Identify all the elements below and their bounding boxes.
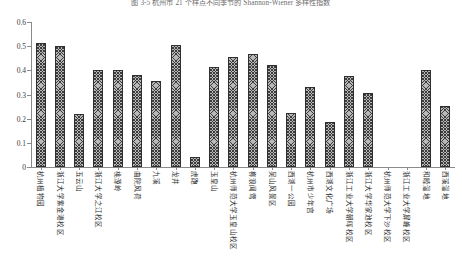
- y-axis-tick-mark: [27, 70, 31, 71]
- x-axis-tick-mark: [253, 167, 254, 170]
- x-axis-category-label: 九溪: [152, 171, 159, 185]
- bar: [132, 75, 142, 167]
- bar: [267, 65, 277, 167]
- x-axis-category-label: 杭州师范大学下沙校区: [384, 171, 391, 243]
- bar: [171, 45, 181, 167]
- y-axis-tick-mark: [27, 46, 31, 47]
- x-axis-category-label: 杭州植物园: [37, 171, 44, 207]
- x-axis-category-label: 虎跑: [191, 171, 198, 185]
- x-axis-tick-mark: [195, 167, 196, 170]
- x-axis-category-label: 西湖一公园: [287, 171, 294, 207]
- y-axis-tick-mark: [27, 143, 31, 144]
- x-axis-tick-mark: [349, 167, 350, 170]
- x-axis-tick-mark: [310, 167, 311, 170]
- bar: [190, 157, 200, 167]
- x-axis-category-label: 吴山风景区: [268, 171, 275, 207]
- x-axis-tick-mark: [368, 167, 369, 170]
- x-axis-category-label: 龙井: [172, 171, 179, 185]
- y-axis-tick-label: 0.4: [17, 66, 26, 75]
- bar: [228, 57, 238, 167]
- x-axis-tick-mark: [98, 167, 99, 170]
- x-axis-category-label: 玉皇山: [210, 171, 217, 193]
- x-axis-category-label: 浙江大学紫金港校区: [56, 171, 63, 236]
- x-axis-category-label: 柳浪闻莺: [249, 171, 256, 200]
- bar: [440, 106, 450, 167]
- x-axis-tick-mark: [214, 167, 215, 170]
- y-axis-tick-label: 0.5: [17, 42, 26, 51]
- x-axis-category-label: 五云山: [75, 171, 82, 193]
- plot-area: 00.10.20.30.40.50.6: [31, 22, 455, 167]
- x-axis-tick-mark: [407, 167, 408, 170]
- x-axis-category-label: 浙江工业大学朝晖校区: [345, 171, 352, 243]
- x-axis-tick-mark: [118, 167, 119, 170]
- bar: [55, 46, 65, 167]
- x-axis-tick-mark: [445, 167, 446, 170]
- x-axis-tick-mark: [291, 167, 292, 170]
- y-axis-tick-mark: [27, 22, 31, 23]
- bar: [113, 70, 123, 167]
- bar: [36, 43, 46, 167]
- x-axis-category-label: 和睦湿地: [422, 171, 429, 200]
- x-axis-tick-mark: [426, 167, 427, 170]
- bar: [209, 67, 219, 167]
- x-axis-tick-mark: [272, 167, 273, 170]
- bar: [344, 76, 354, 167]
- x-axis-tick-mark: [330, 167, 331, 170]
- x-axis-tick-mark: [137, 167, 138, 170]
- y-axis-tick-mark: [27, 119, 31, 120]
- x-axis-category-label: 杭州市少年宫: [306, 171, 313, 214]
- x-axis-category-label: 曲院风荷: [133, 171, 140, 200]
- figure-caption: 图 3-5 杭州市 21 个样点不同季节的 Shannon-Wiener 多样性…: [0, 0, 462, 6]
- y-axis-tick-label: 0.2: [17, 114, 26, 123]
- x-axis-tick-mark: [41, 167, 42, 170]
- y-axis-tick-label: 0.6: [17, 18, 26, 27]
- x-axis-category-label: 桃源岭: [114, 171, 121, 193]
- bar: [421, 70, 431, 167]
- x-axis-tick-mark: [156, 167, 157, 170]
- x-axis-line: [31, 167, 455, 168]
- bar: [305, 87, 315, 167]
- x-axis-category-label: 西湖文化广场: [326, 171, 333, 214]
- bar: [286, 113, 296, 167]
- x-axis-tick-mark: [176, 167, 177, 170]
- x-axis-category-label: 浙江工业大学屏峰校区: [403, 171, 410, 243]
- bar: [363, 93, 373, 167]
- bar: [248, 54, 258, 167]
- x-axis-tick-mark: [233, 167, 234, 170]
- figure-container: 图 3-5 杭州市 21 个样点不同季节的 Shannon-Wiener 多样性…: [0, 0, 462, 273]
- y-axis-tick-mark: [27, 95, 31, 96]
- x-axis-category-label: 西溪湿地: [441, 171, 448, 200]
- x-axis-category-label: 浙江大学之江校区: [94, 171, 101, 229]
- x-axis-category-label: 杭州师范大学玉皇山校区: [229, 171, 236, 250]
- x-axis-tick-mark: [79, 167, 80, 170]
- bar: [151, 81, 161, 167]
- y-axis-tick-label: 0.3: [17, 90, 26, 99]
- bar: [74, 114, 84, 167]
- y-axis-tick-label: 0.1: [17, 138, 26, 147]
- x-axis-tick-mark: [60, 167, 61, 170]
- bar: [325, 122, 335, 167]
- x-axis-tick-mark: [388, 167, 389, 170]
- y-axis-tick-label: 0: [22, 163, 26, 172]
- y-axis-tick-mark: [27, 167, 31, 168]
- x-axis-category-label: 浙江大学华家池校区: [364, 171, 371, 236]
- bar: [93, 70, 103, 167]
